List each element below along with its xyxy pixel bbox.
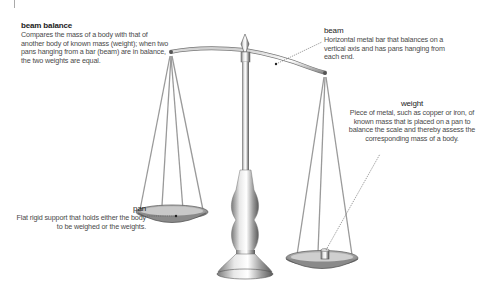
- label-beam-balance-text: Compares the mass of a body with that of…: [21, 30, 168, 65]
- label-weight: weight Piece of metal, such as copper or…: [342, 99, 477, 143]
- weight: [321, 249, 329, 260]
- label-beam-balance: beam balance Compares the mass of a body…: [21, 21, 169, 65]
- left-pan: [136, 205, 208, 223]
- label-beam: beam Horizontal metal bar that balances …: [324, 26, 454, 62]
- label-pan-text: Flat rigid support that holds either the…: [17, 213, 147, 231]
- label-beam-text: Horizontal metal bar that balances on a …: [324, 35, 445, 61]
- label-weight-text: Piece of metal, such as copper or iron, …: [349, 108, 475, 143]
- pillar: [217, 34, 273, 279]
- left-pan-chains: [140, 56, 203, 210]
- label-pan: pan Flat rigid support that holds either…: [14, 204, 146, 231]
